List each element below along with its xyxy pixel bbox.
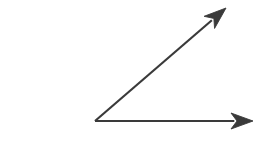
- angle-diagram-svg: [0, 0, 280, 145]
- angle-diagram-canvas: [0, 0, 280, 145]
